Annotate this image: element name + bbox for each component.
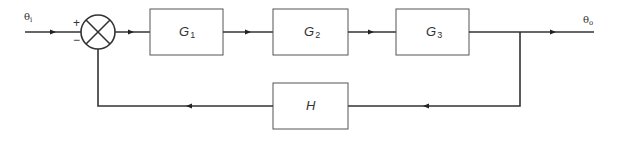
block-g1-subscript: 1	[190, 30, 195, 40]
block-h-label: H	[306, 99, 315, 112]
block-g1-label: G1	[179, 25, 195, 40]
input-arrow-icon	[50, 30, 56, 35]
block-h-name: H	[306, 98, 315, 113]
output-signal-subscript: o	[589, 19, 593, 27]
plus-sign: +	[73, 17, 80, 29]
feedback-arrow-icon	[186, 104, 192, 109]
block-g3-label: G3	[426, 25, 442, 40]
block-g2-label: G2	[304, 25, 320, 40]
output-arrow-icon	[550, 30, 556, 35]
input-signal-subscript: i	[30, 16, 32, 24]
arrow-icon	[128, 30, 134, 35]
minus-sign: −	[73, 34, 80, 46]
block-diagram	[0, 0, 617, 141]
block-g2-subscript: 2	[315, 30, 320, 40]
block-g3-subscript: 3	[437, 30, 442, 40]
output-signal-label: θo	[583, 15, 593, 27]
block-g3-name: G	[426, 24, 436, 39]
input-signal-label: θi	[24, 12, 32, 24]
feedback-arrow-icon	[423, 104, 429, 109]
block-g2-name: G	[304, 24, 314, 39]
arrow-icon	[245, 30, 251, 35]
block-g1-name: G	[179, 24, 189, 39]
feedback-wire-left	[98, 49, 273, 106]
summing-junction	[81, 15, 115, 49]
arrow-icon	[368, 30, 374, 35]
